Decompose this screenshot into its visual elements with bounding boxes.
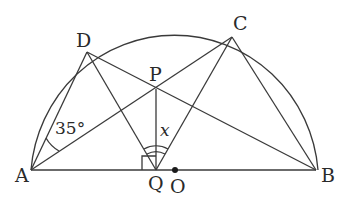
label-Q: Q [148, 172, 164, 194]
label-A: A [14, 164, 29, 186]
label-O: O [170, 175, 186, 197]
segment-BC [232, 37, 316, 170]
angle-label-x: x [160, 120, 170, 140]
label-B: B [321, 164, 335, 186]
segment-CQ [156, 37, 232, 170]
angle-arc-A [46, 138, 59, 151]
label-C: C [233, 12, 248, 34]
geometry-figure: A B C D P Q O 35° x [0, 0, 349, 206]
label-D: D [76, 29, 91, 51]
semicircle-arc [31, 35, 318, 170]
segment-AD [31, 52, 87, 170]
segment-AC [31, 37, 232, 170]
angle-label-35: 35° [55, 118, 85, 138]
center-dot-O [172, 167, 178, 173]
label-P: P [149, 63, 162, 85]
